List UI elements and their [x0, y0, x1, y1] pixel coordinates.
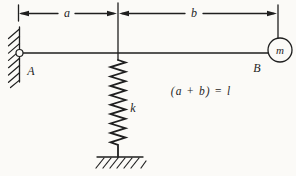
wall-hatching — [9, 29, 20, 88]
ground-hatching — [96, 158, 146, 168]
spring-zigzag — [111, 60, 126, 157]
diagram-linework — [9, 3, 293, 168]
arrow-b-left-icon — [119, 11, 129, 16]
dimension-label-b: b — [191, 7, 197, 19]
arrow-a-left-icon — [19, 11, 29, 16]
length-equation: (a + b) = l — [171, 86, 231, 98]
diagram-drawing — [0, 0, 296, 176]
spring-constant-label: k — [130, 102, 135, 114]
mass-label: m — [276, 45, 284, 56]
point-label-B: B — [253, 62, 260, 74]
pin-joint-icon — [16, 50, 23, 57]
arrow-a-right-icon — [107, 11, 117, 16]
point-label-A: A — [27, 65, 34, 77]
arrow-b-right-icon — [267, 11, 277, 16]
dimension-label-a: a — [64, 7, 70, 19]
beam-spring-mass-diagram: a b A B m k (a + b) = l — [0, 0, 296, 176]
